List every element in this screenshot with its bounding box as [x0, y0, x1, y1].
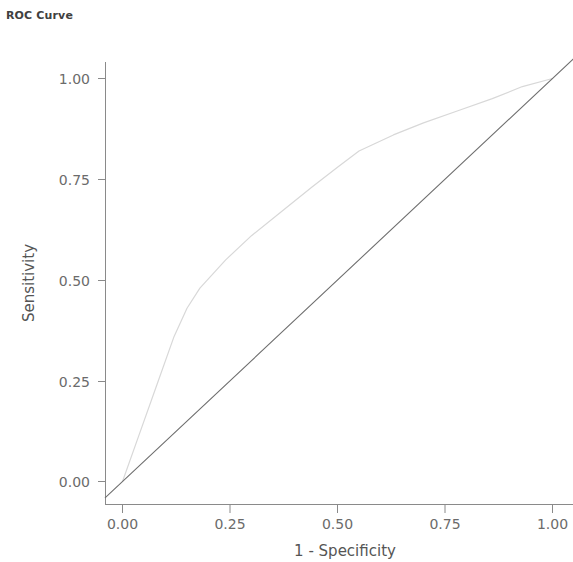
- plot-area: 1.00 0.75 0.50 0.25 0.00 0.00 0.25 0.50 …: [0, 0, 573, 562]
- x-tick-label-050: 0.50: [322, 516, 353, 532]
- y-tick-label-000: 0.00: [59, 474, 90, 490]
- y-axis-ticks: [98, 79, 105, 482]
- x-tick-label-000: 0.00: [107, 516, 138, 532]
- x-axis-title: 1 - Specificity: [294, 542, 396, 560]
- y-tick-label-050: 0.50: [59, 273, 90, 289]
- x-tick-label-075: 0.75: [429, 516, 460, 532]
- y-axis-title: Sensitivity: [20, 244, 38, 322]
- series-layer: [105, 58, 573, 497]
- y-tick-label-075: 0.75: [59, 172, 90, 188]
- reference-diagonal-line: [105, 58, 573, 497]
- y-tick-label-100: 1.00: [59, 71, 90, 87]
- x-tick-label-100: 1.00: [537, 516, 568, 532]
- y-tick-label-025: 0.25: [59, 374, 90, 390]
- x-tick-label-025: 0.25: [214, 516, 245, 532]
- x-axis-ticks: [123, 505, 553, 513]
- roc-chart: ROC Curve 1.00 0.75 0.50 0.25 0.00 0.00: [0, 0, 573, 562]
